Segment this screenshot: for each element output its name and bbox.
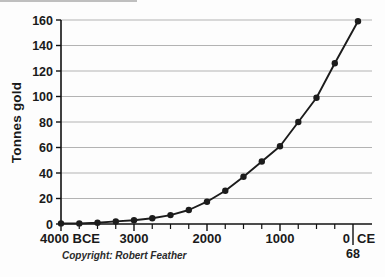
y-tick-label: 20	[39, 192, 53, 206]
era-sub-label: 68	[346, 247, 360, 261]
y-axis-ticks: 020406080100120140160	[32, 14, 61, 232]
data-point-marker	[240, 174, 246, 180]
data-point-marker	[295, 119, 301, 125]
data-point-marker	[355, 18, 361, 24]
data-point-marker	[167, 212, 173, 218]
data-point-marker	[186, 207, 192, 213]
x-tick-label: 1000	[266, 231, 295, 246]
data-point-marker	[58, 220, 64, 226]
data-point-marker	[76, 220, 82, 226]
copyright-note: Copyright: Robert Feather	[62, 250, 186, 261]
data-point-marker	[149, 215, 155, 221]
data-point-marker	[113, 218, 119, 224]
data-point-marker	[259, 158, 265, 164]
data-point-marker	[204, 199, 210, 205]
y-tick-label: 120	[32, 65, 53, 79]
y-tick-label: 160	[32, 14, 53, 28]
y-tick-label: 100	[32, 90, 53, 104]
zero-tick-label: 0	[343, 231, 350, 246]
x-tick-label: 2000	[193, 231, 222, 246]
x-axis-major-ticks: 4000 BCE300020001000	[40, 224, 294, 246]
data-point-marker	[313, 95, 319, 101]
y-tick-label: 60	[39, 141, 53, 155]
gridlines	[61, 20, 372, 199]
y-tick-label: 140	[32, 39, 53, 53]
data-point-marker	[222, 188, 228, 194]
data-point-marker	[94, 220, 100, 226]
y-tick-label: 40	[39, 167, 53, 181]
era-label: CE	[357, 231, 375, 246]
x-tick-label: 4000 BCE	[40, 231, 100, 246]
gold-production-figure: 0204060801001201401604000 BCE30002000100…	[0, 0, 385, 277]
y-tick-label: 80	[39, 116, 53, 130]
data-point-marker	[277, 143, 283, 149]
era-boundary-tick: 0CE68	[343, 224, 376, 261]
y-tick-label: 0	[46, 218, 53, 232]
data-point-marker	[332, 60, 338, 66]
y-axis-title: Tonnes gold	[9, 63, 26, 183]
data-point-marker	[131, 217, 137, 223]
x-tick-label: 3000	[120, 231, 149, 246]
line-chart-canvas: 0204060801001201401604000 BCE30002000100…	[0, 0, 385, 277]
